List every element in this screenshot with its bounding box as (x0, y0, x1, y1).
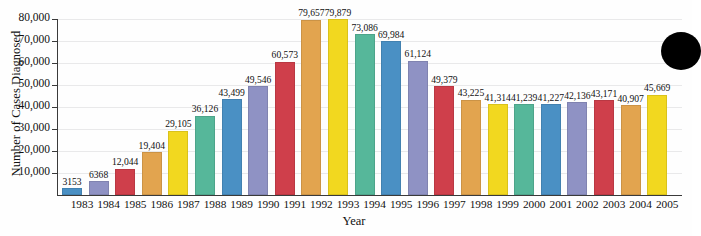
y-axis-tick-label: 30,000 (0, 121, 50, 133)
bar-value-label: 69,984 (368, 29, 414, 40)
bar-rect (514, 104, 534, 195)
y-axis-tick-label: 50,000 (0, 77, 50, 89)
bar: 12,044 (115, 169, 135, 195)
y-axis-tick-label: 60,000 (0, 55, 50, 67)
bar: 29,105 (168, 131, 188, 195)
bar-value-label: 79,879 (315, 7, 361, 18)
bar-rect (647, 95, 667, 195)
bar-rect (195, 116, 215, 195)
bar-rect (567, 102, 587, 195)
bar: 79,879 (328, 19, 348, 195)
x-axis-ticks: 1983198419851986198719881989199019911992… (57, 198, 682, 214)
bar: 49,379 (434, 86, 454, 195)
bar-value-label: 49,379 (421, 74, 467, 85)
bar-rect (594, 100, 614, 195)
bar: 42,136 (567, 102, 587, 195)
bar-rect (461, 100, 481, 195)
bar-series: 3153636812,04419,40429,10536,12643,49949… (57, 10, 682, 196)
bar-rect (275, 62, 295, 195)
bar-rect (89, 181, 109, 195)
bar: 36,126 (195, 116, 215, 195)
bar-rect (222, 99, 242, 195)
y-axis-tick-label: 10,000 (0, 165, 50, 177)
bar: 41,239 (514, 104, 534, 195)
bar: 40,907 (621, 105, 641, 195)
y-axis-tick-label: 20,000 (0, 143, 50, 155)
bar: 79,657 (301, 20, 321, 195)
bar-rect (355, 34, 375, 195)
x-axis-title-text: Year (342, 214, 365, 228)
scan-artifact-circle-icon (661, 32, 701, 70)
bar-rect (381, 41, 401, 195)
bar-rect (248, 86, 268, 195)
bar: 73,086 (355, 34, 375, 195)
bar-value-label: 61,124 (395, 48, 441, 59)
bar-rect (301, 20, 321, 195)
y-axis-tick-label: 70,000 (0, 33, 50, 45)
bar-rect (541, 104, 561, 195)
bar-rect (62, 188, 82, 195)
bar: 60,573 (275, 62, 295, 195)
bar-rect (488, 104, 508, 195)
bar: 43,499 (222, 99, 242, 195)
bar-rect (142, 152, 162, 195)
bar-rect (434, 86, 454, 195)
y-axis-tick-label: 40,000 (0, 99, 50, 111)
bar: 3153 (62, 188, 82, 195)
bar: 49,546 (248, 86, 268, 195)
bar: 69,984 (381, 41, 401, 195)
bar: 41,314 (488, 104, 508, 195)
plot-area: 10,00020,00030,00040,00050,00060,00070,0… (57, 10, 682, 196)
bar-value-label: 45,669 (634, 82, 680, 93)
y-axis-tick-label: 80,000 (0, 11, 50, 23)
bar: 43,171 (594, 100, 614, 195)
bar: 6368 (89, 181, 109, 195)
bar: 19,404 (142, 152, 162, 195)
bar-rect (115, 169, 135, 195)
x-axis-title: Year (0, 214, 692, 229)
bar-rect (328, 19, 348, 195)
x-axis-tick-label: 2005 (647, 198, 687, 210)
bar: 45,669 (647, 95, 667, 195)
bar: 43,225 (461, 100, 481, 195)
bar: 41,227 (541, 104, 561, 195)
bar-rect (621, 105, 641, 195)
bar-rect (168, 131, 188, 195)
